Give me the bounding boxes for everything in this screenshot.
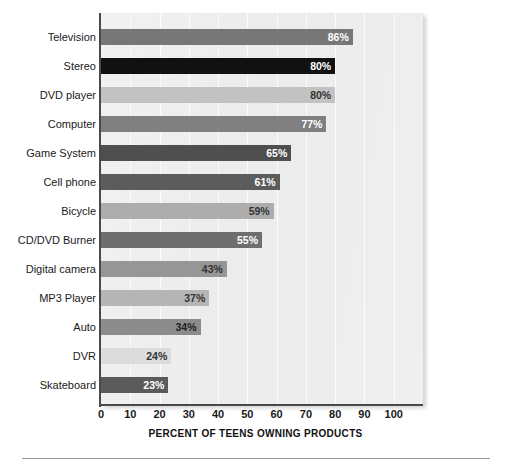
category-label: Skateboard [2, 377, 96, 393]
x-tick-label: 40 [212, 408, 224, 420]
bar-row: 61% [101, 174, 423, 190]
bar-chart: 86%80%80%77%65%61%59%55%43%37%34%24%23% … [0, 0, 511, 471]
plot-area: 86%80%80%77%65%61%59%55%43%37%34%24%23% [101, 13, 423, 405]
category-label: Game System [2, 145, 96, 161]
category-label: DVR [2, 348, 96, 364]
bar-row: 43% [101, 261, 423, 277]
x-tick-label: 30 [183, 408, 195, 420]
bar-value-label: 59% [242, 203, 270, 219]
category-label: Bicycle [2, 203, 96, 219]
bar [101, 87, 335, 103]
bar-value-label: 86% [321, 29, 349, 45]
bar [101, 29, 353, 45]
bar-row: 86% [101, 29, 423, 45]
x-tick-label: 80 [329, 408, 341, 420]
x-tick-label: 60 [271, 408, 283, 420]
x-tick-label: 0 [98, 408, 104, 420]
category-label: MP3 Player [2, 290, 96, 306]
category-label: Cell phone [2, 174, 96, 190]
bar-value-label: 80% [303, 58, 331, 74]
bar [101, 116, 326, 132]
x-axis-line [99, 404, 423, 406]
bar-value-label: 37% [177, 290, 205, 306]
category-label: Computer [2, 116, 96, 132]
bar-row: 34% [101, 319, 423, 335]
bar [101, 58, 335, 74]
bar-row: 80% [101, 58, 423, 74]
bar-value-label: 61% [248, 174, 276, 190]
bar-value-label: 65% [259, 145, 287, 161]
category-label: Digital camera [2, 261, 96, 277]
category-label: DVD player [2, 87, 96, 103]
bar-row: 24% [101, 348, 423, 364]
x-axis-title: PERCENT OF TEENS OWNING PRODUCTS [0, 428, 511, 439]
x-tick-label: 10 [124, 408, 136, 420]
bar-row: 23% [101, 377, 423, 393]
x-tick-label: 100 [385, 408, 403, 420]
x-tick-label: 90 [358, 408, 370, 420]
bar-value-label: 34% [169, 319, 197, 335]
category-label: Television [2, 29, 96, 45]
y-axis-line [99, 13, 101, 407]
footer-divider [22, 458, 490, 459]
bar-row: 55% [101, 232, 423, 248]
bar-value-label: 80% [303, 87, 331, 103]
bar-row: 77% [101, 116, 423, 132]
category-label: CD/DVD Burner [2, 232, 96, 248]
bar-value-label: 55% [230, 232, 258, 248]
category-label: Auto [2, 319, 96, 335]
category-label: Stereo [2, 58, 96, 74]
bar-row: 65% [101, 145, 423, 161]
x-tick-label: 50 [241, 408, 253, 420]
bar-row: 37% [101, 290, 423, 306]
x-tick-label: 70 [300, 408, 312, 420]
bar-row: 59% [101, 203, 423, 219]
x-tick-label: 20 [153, 408, 165, 420]
bar-value-label: 23% [136, 377, 164, 393]
bar-value-label: 43% [195, 261, 223, 277]
bar-value-label: 24% [139, 348, 167, 364]
bar-value-label: 77% [294, 116, 322, 132]
bar-row: 80% [101, 87, 423, 103]
